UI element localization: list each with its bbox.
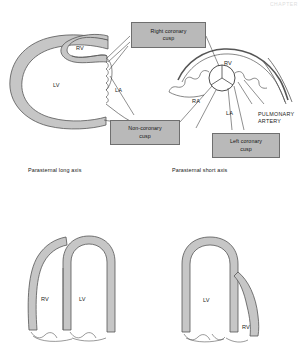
callout-left-coronary-cusp-line2: cusp [240, 146, 252, 153]
cusp-commissure-left [211, 78, 222, 85]
leader-lcc-short-axis-2 [234, 86, 244, 130]
leader-rcc-short-axis [206, 36, 219, 66]
apical-right-atria-outline [186, 338, 248, 342]
long-axis-label-lv: LV [53, 82, 60, 88]
short-axis-label-rv: RV [224, 60, 232, 66]
apical-right-valve-scallops [184, 334, 225, 340]
apical-right-lv-wall [182, 237, 238, 332]
long-axis-label-la: LA [115, 87, 122, 93]
callout-left-coronary-cusp: Left coronary cusp [212, 133, 280, 158]
callout-non-coronary-cusp: Non-coronary cusp [110, 120, 180, 145]
panel-parasternal-long-axis [10, 34, 136, 129]
rv-outflow-arc [178, 49, 288, 100]
apical-left-rv-wall [28, 237, 67, 330]
callout-right-coronary-cusp: Right coronary cusp [131, 22, 206, 48]
leader-pa [238, 82, 252, 104]
long-axis-label-rv: RV [76, 45, 84, 51]
rv-outflow-arc-inner [182, 54, 285, 102]
apical-left-lv-wall [63, 236, 115, 332]
ra-lower-outline [169, 92, 204, 97]
callout-right-coronary-cusp-line1: Right coronary [151, 28, 187, 35]
caption-parasternal-long-axis: Parasternal long axis [28, 167, 82, 173]
apical-left-label-rv: RV [41, 296, 49, 302]
apical-right-label-rv: RV [242, 324, 250, 330]
cusp-commissure-right [222, 78, 233, 85]
apical-right-label-lv: LV [203, 297, 210, 303]
pulmonary-artery-label-line2: ARTERY [258, 118, 294, 125]
pulmonary-artery-label: PULMONARY ARTERY [258, 111, 294, 126]
leader-ncc-short-axis [180, 86, 212, 122]
la-wall-short-axis [235, 72, 267, 89]
leader-ncc-long-axis-2 [110, 76, 134, 115]
leader-lcc-short-axis [228, 88, 232, 130]
leader-pa-2 [244, 80, 264, 104]
pulmonary-artery-label-line1: PULMONARY [258, 111, 294, 118]
short-axis-label-la: LA [226, 110, 233, 116]
callout-right-coronary-cusp-line2: cusp [163, 35, 175, 42]
callout-non-coronary-cusp-line2: cusp [139, 133, 151, 140]
leader-ncc-short-axis-2 [196, 90, 216, 128]
panel-apical-view-left [28, 236, 115, 341]
figure-page: CHAPTER [0, 0, 302, 343]
ra-wall-outline [169, 71, 209, 92]
apical-left-valve-scallops [31, 332, 96, 338]
leader-ncc-long-axis [109, 46, 128, 70]
leader-rcc-long-axis [107, 36, 130, 58]
callout-left-coronary-cusp-line1: Left coronary [230, 138, 262, 145]
callout-non-coronary-cusp-line1: Non-coronary [128, 125, 161, 132]
short-axis-label-ra: RA [192, 98, 200, 104]
caption-parasternal-short-axis: Parasternal short axis [172, 167, 227, 173]
apical-left-label-lv: LV [79, 296, 86, 302]
valve-leaflets-long-axis [106, 62, 108, 103]
leader-rcc-long-axis-2 [108, 42, 130, 62]
